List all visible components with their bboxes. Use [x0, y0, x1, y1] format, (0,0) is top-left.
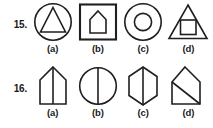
option-16-c[interactable]: (c) [121, 62, 166, 118]
options-row-16: (a) (b) [30, 62, 213, 118]
question-number-16: 16. [0, 62, 30, 94]
option-15-a[interactable]: (a) [30, 0, 75, 54]
figure-hexagon-with-vertical-line [121, 62, 165, 107]
option-15-d[interactable]: (d) [166, 0, 211, 54]
figure-circle-with-inscribed-circle [121, 0, 165, 44]
figure-circle-with-inscribed-triangle [31, 0, 75, 44]
option-label-16-d: (d) [183, 107, 195, 118]
question-row-16: 16. (a) ( [0, 62, 213, 128]
option-label-15-a: (a) [47, 43, 58, 54]
worksheet-page: 15. (a) ( [0, 0, 213, 128]
option-label-16-a: (a) [47, 107, 58, 118]
options-row-15: (a) (b) [30, 0, 213, 54]
figure-pentagon-house-with-vertical-line [31, 62, 75, 107]
option-15-c[interactable]: (c) [121, 0, 166, 54]
option-16-d[interactable]: (d) [166, 62, 211, 118]
option-label-15-c: (c) [138, 43, 149, 54]
figure-circle-with-vertical-diameter [76, 62, 120, 107]
option-label-15-d: (d) [183, 43, 195, 54]
option-16-b[interactable]: (b) [75, 62, 120, 118]
option-label-15-b: (b) [92, 43, 104, 54]
figure-pentagon-house-with-diagonal-line [166, 62, 210, 107]
figure-triangle-with-inscribed-square [166, 0, 210, 44]
option-16-a[interactable]: (a) [30, 62, 75, 118]
option-label-16-c: (c) [138, 107, 149, 118]
question-number-15: 15. [0, 0, 30, 30]
option-label-16-b: (b) [92, 107, 104, 118]
question-row-15: 15. (a) ( [0, 0, 213, 62]
option-15-b[interactable]: (b) [75, 0, 120, 54]
figure-square-with-inscribed-pentagon-house [76, 0, 120, 44]
